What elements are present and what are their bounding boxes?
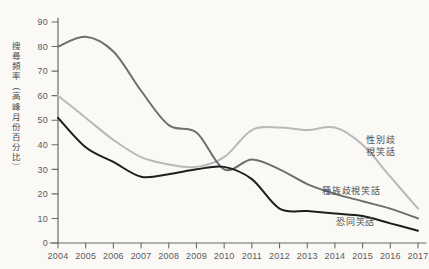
y-tick-label: 60 <box>38 91 48 101</box>
y-tick-label: 90 <box>38 17 48 27</box>
y-tick-label: 40 <box>38 140 48 150</box>
line-chart-plot: 0102030405060708090 20042005200620072008… <box>0 0 429 269</box>
x-tick-label: 2010 <box>214 251 235 261</box>
x-tick-label: 2016 <box>380 251 401 261</box>
x-tick-label: 2012 <box>269 251 290 261</box>
data-series-group <box>58 37 418 231</box>
y-tick-label: 50 <box>38 115 48 125</box>
y-tick-label: 20 <box>38 189 48 199</box>
chart-container: 0102030405060708090 20042005200620072008… <box>0 0 429 269</box>
x-tick-label: 2009 <box>186 251 207 261</box>
x-tick-label: 2014 <box>325 251 346 261</box>
x-tick-label: 2007 <box>131 251 152 261</box>
series-line-2 <box>58 118 418 231</box>
y-tick-label: 80 <box>38 42 48 52</box>
series-label-sexist: 性別歧 視笑話 <box>366 134 395 158</box>
y-tick-label: 0 <box>43 238 48 248</box>
x-tick-label: 2004 <box>48 251 69 261</box>
series-label-racist: 種族歧視笑話 <box>322 185 381 197</box>
x-axis-tick-group: 2004200520062007200820092010201120122013… <box>48 243 429 261</box>
x-tick-label: 2008 <box>158 251 179 261</box>
y-axis-title: 搜尋頻率（高峰月份百分比） <box>10 42 19 242</box>
x-tick-label: 2006 <box>103 251 124 261</box>
x-tick-label: 2013 <box>297 251 318 261</box>
x-tick-label: 2015 <box>352 251 373 261</box>
series-label-homophobic: 恐同笑話 <box>336 216 375 228</box>
y-tick-label: 10 <box>38 214 48 224</box>
x-tick-label: 2011 <box>242 251 262 261</box>
y-tick-label: 70 <box>38 66 48 76</box>
x-tick-label: 2017 <box>408 251 429 261</box>
x-tick-label: 2005 <box>75 251 96 261</box>
y-tick-label: 30 <box>38 165 48 175</box>
y-axis-tick-group: 0102030405060708090 <box>38 17 58 248</box>
